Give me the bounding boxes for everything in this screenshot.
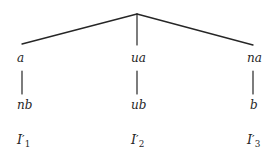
node-middle-level-two: ub (131, 99, 146, 111)
node-left-level-three: I′1 (17, 133, 30, 149)
node-middle-level-one: ua (131, 52, 146, 64)
level-three-subscript-left: 1 (25, 139, 31, 149)
tree-diagram: a ua na nb ub b I′1 I′2 I′3 (0, 0, 274, 163)
node-left-level-two: nb (17, 99, 32, 111)
node-right-level-one: na (247, 52, 262, 64)
node-right-level-two: b (250, 99, 258, 111)
node-left-level-one: a (17, 52, 24, 64)
level-three-subscript-right: 3 (255, 139, 261, 149)
edge-apex-to-left (22, 14, 137, 44)
node-middle-level-three: I′2 (131, 133, 144, 149)
level-three-subscript-middle: 2 (139, 139, 145, 149)
edge-apex-to-right (137, 14, 253, 45)
node-right-level-three: I′3 (247, 133, 260, 149)
